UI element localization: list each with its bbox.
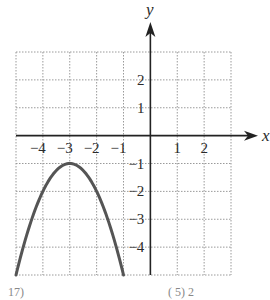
y-tick-label: −4 bbox=[128, 239, 144, 255]
y-tick-label: 2 bbox=[137, 72, 145, 88]
next-problem-text: ( 5) 2 bbox=[168, 285, 194, 300]
x-tick-label: −2 bbox=[84, 140, 100, 156]
y-tick-label: −3 bbox=[128, 211, 144, 227]
x-tick-label: 2 bbox=[200, 140, 208, 156]
problem-number: 17) bbox=[8, 285, 24, 300]
y-tick-label: 1 bbox=[137, 100, 145, 116]
x-tick-label: −1 bbox=[111, 140, 127, 156]
y-tick-label: −1 bbox=[128, 156, 144, 172]
x-tick-label: −4 bbox=[30, 140, 46, 156]
x-tick-label: −3 bbox=[57, 140, 73, 156]
x-tick-label: 1 bbox=[174, 140, 182, 156]
y-axis-label: y bbox=[144, 0, 154, 19]
grid bbox=[16, 52, 231, 275]
x-axis-label: x bbox=[261, 126, 270, 145]
axes bbox=[16, 22, 258, 275]
parabola-curve bbox=[16, 164, 124, 276]
y-tick-label: −2 bbox=[128, 183, 144, 199]
